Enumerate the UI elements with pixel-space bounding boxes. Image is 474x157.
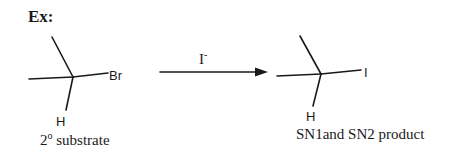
bond-methyl-left xyxy=(29,77,73,79)
arrow-head-icon xyxy=(255,68,268,77)
iodine-label: I xyxy=(364,65,368,80)
example-heading: Ex: xyxy=(28,7,54,26)
bond-c-h xyxy=(313,74,321,106)
reactant-molecule: Br H xyxy=(29,37,123,129)
product-molecule: I H xyxy=(277,36,368,124)
bond-c-h xyxy=(66,77,73,110)
bond-methyl-left xyxy=(277,74,321,76)
bond-methyl-top xyxy=(300,36,321,74)
reagent-label: I- xyxy=(199,49,207,67)
reaction-arrow xyxy=(160,68,268,77)
reagent-charge: - xyxy=(204,49,207,60)
reaction-diagram: Ex: Br H 2o substrate I- I H SN1and SN2 … xyxy=(0,0,474,157)
reactant-caption: 2o substrate xyxy=(40,130,110,148)
hydrogen-label: H xyxy=(306,109,315,124)
caption-text: substrate xyxy=(53,132,110,148)
caption-number: 2 xyxy=(40,132,48,148)
bromine-label: Br xyxy=(109,68,123,83)
hydrogen-label: H xyxy=(56,114,65,129)
bond-methyl-top xyxy=(52,37,73,77)
product-caption: SN1and SN2 product xyxy=(296,126,425,142)
bond-c-br xyxy=(73,73,108,77)
bond-c-i xyxy=(321,70,361,74)
